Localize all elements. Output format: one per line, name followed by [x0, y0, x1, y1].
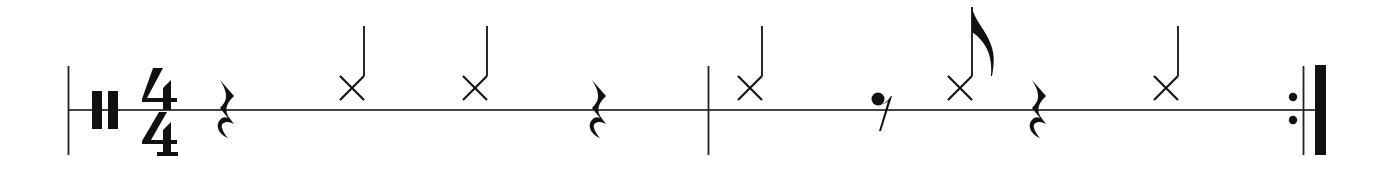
- time-sig-numerator-glyph: [142, 68, 177, 110]
- repeat-thick-line: [1315, 65, 1326, 155]
- measure-2: [738, 7, 1178, 138]
- repeat-dot-lower: [1289, 116, 1297, 124]
- time-signature-icon: [142, 68, 178, 156]
- eighth-rest-icon: [872, 93, 893, 132]
- x-notehead-quarter-icon: [340, 26, 364, 100]
- measure-1: [218, 26, 606, 138]
- x-notehead-quarter-icon: [463, 26, 487, 100]
- eighth-flag-icon: [972, 7, 994, 76]
- x-notehead-quarter-icon: [1154, 26, 1178, 100]
- x-notehead-quarter-icon: [738, 26, 762, 100]
- repeat-dot-upper: [1289, 93, 1297, 101]
- x-notehead-eighth-icon: [948, 7, 994, 100]
- percussion-staff: [0, 0, 1388, 170]
- time-sig-denominator-glyph: [142, 112, 178, 156]
